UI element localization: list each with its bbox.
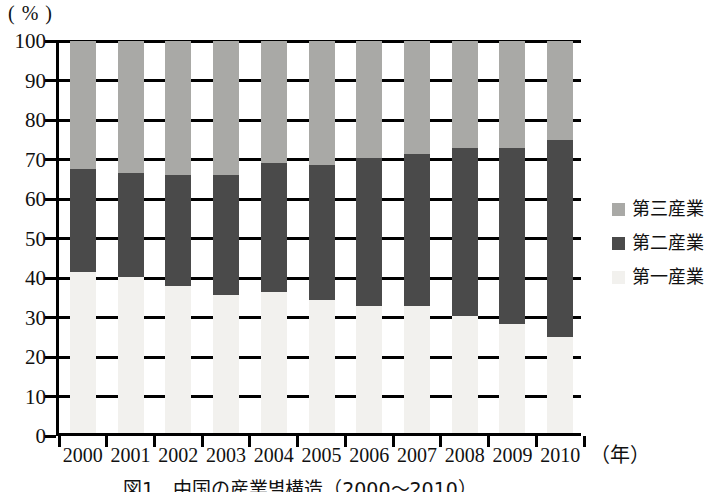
legend-item: 第三産業 xyxy=(612,192,720,226)
y-tick-60 xyxy=(45,198,56,201)
y-tick-70 xyxy=(45,158,56,161)
y-axis-tick-label: 50 xyxy=(2,228,46,249)
y-tick-10 xyxy=(45,395,56,398)
plot-area xyxy=(56,41,581,436)
y-axis-tick-label: 10 xyxy=(2,386,46,407)
secondary-swatch-icon xyxy=(612,237,625,250)
y-tick-0 xyxy=(45,435,56,438)
y-tick-40 xyxy=(45,277,56,280)
y-axis-tick-label: 0 xyxy=(2,426,46,447)
legend-item: 第二産業 xyxy=(612,226,720,260)
primary-swatch-icon xyxy=(612,271,625,284)
y-tick-20 xyxy=(45,356,56,359)
figure-caption: 図1 中国の産業별構造（2000～2010） xyxy=(0,474,600,492)
y-tick-90 xyxy=(45,79,56,82)
legend-label: 第二産業 xyxy=(632,234,704,252)
legend: 第三産業第二産業第一産業 xyxy=(612,192,720,294)
x-axis-labels: 2000200120022003200420052006200720082009… xyxy=(56,444,584,474)
y-tick-100 xyxy=(45,40,56,43)
y-axis-tick-label: 80 xyxy=(2,110,46,131)
y-axis-tick-label: 90 xyxy=(2,70,46,91)
y-axis-tick-label: 20 xyxy=(2,347,46,368)
x-axis-tick-label: 2010 xyxy=(532,444,588,466)
y-axis-tick-label: 100 xyxy=(2,31,46,52)
y-tick-80 xyxy=(45,119,56,122)
y-tick-50 xyxy=(45,237,56,240)
legend-label: 第一産業 xyxy=(632,268,704,286)
tertiary-swatch-icon xyxy=(612,203,625,216)
legend-label: 第三産業 xyxy=(632,200,704,218)
y-axis-tick-label: 40 xyxy=(2,268,46,289)
y-tick-30 xyxy=(45,316,56,319)
plot-frame xyxy=(56,41,581,436)
y-axis-labels: 0102030405060708090100 xyxy=(0,41,46,436)
y-axis-unit-label: ( % ) xyxy=(8,2,53,25)
legend-item: 第一産業 xyxy=(612,260,720,294)
y-axis-tick-label: 70 xyxy=(2,149,46,170)
x-axis-unit-label: （年） xyxy=(590,444,650,466)
stacked-bar-chart-figure: ( % ) 0102030405060708090100 20002001200… xyxy=(0,0,720,492)
y-axis-tick-label: 30 xyxy=(2,307,46,328)
y-axis-tick-label: 60 xyxy=(2,189,46,210)
